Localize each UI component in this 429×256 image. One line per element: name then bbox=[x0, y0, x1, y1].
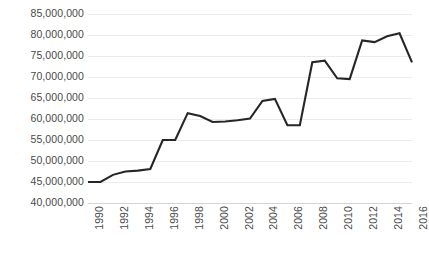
x-tick-label: 1990 bbox=[93, 206, 105, 230]
x-tick-label: 2000 bbox=[218, 206, 230, 230]
y-tick-label: 75,000,000 bbox=[30, 50, 84, 61]
plot-area bbox=[88, 14, 412, 203]
x-tick-label: 2014 bbox=[392, 206, 404, 230]
x-tick-label: 2016 bbox=[417, 206, 429, 230]
x-tick-label: 1994 bbox=[143, 206, 155, 230]
data-series-line bbox=[88, 14, 412, 203]
y-axis-labels: 85,000,00080,000,00075,000,00070,000,000… bbox=[0, 0, 84, 256]
y-tick-label: 40,000,000 bbox=[30, 197, 84, 208]
x-tick-label: 2002 bbox=[243, 206, 255, 230]
x-tick-label: 1992 bbox=[118, 206, 130, 230]
series-1-polyline bbox=[88, 33, 412, 182]
x-tick-label: 2010 bbox=[342, 206, 354, 230]
y-tick-label: 45,000,000 bbox=[30, 176, 84, 187]
line-chart: 85,000,00080,000,00075,000,00070,000,000… bbox=[0, 0, 429, 256]
y-tick-label: 60,000,000 bbox=[30, 113, 84, 124]
y-tick-label: 50,000,000 bbox=[30, 155, 84, 166]
x-tick-label: 1998 bbox=[193, 206, 205, 230]
x-tick-label: 1996 bbox=[168, 206, 180, 230]
y-tick-label: 55,000,000 bbox=[30, 134, 84, 145]
x-axis-labels: 1990199219941996199820002002200420062008… bbox=[88, 206, 412, 256]
y-tick-label: 70,000,000 bbox=[30, 71, 84, 82]
y-tick-label: 85,000,000 bbox=[30, 8, 84, 19]
gridline-40000000 bbox=[88, 203, 412, 204]
y-tick-label: 80,000,000 bbox=[30, 29, 84, 40]
x-tick-label: 2008 bbox=[317, 206, 329, 230]
x-tick-label: 2012 bbox=[367, 206, 379, 230]
x-tick-label: 2006 bbox=[292, 206, 304, 230]
x-tick-label: 2004 bbox=[267, 206, 279, 230]
y-tick-label: 65,000,000 bbox=[30, 92, 84, 103]
